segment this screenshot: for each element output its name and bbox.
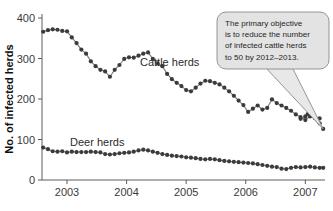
data-point — [198, 157, 202, 161]
data-point — [251, 161, 255, 165]
data-point — [89, 150, 93, 154]
data-point — [294, 165, 298, 169]
y-tick-label: 200 — [17, 93, 35, 105]
data-point — [189, 156, 193, 160]
data-point — [165, 72, 169, 76]
data-point — [113, 68, 117, 72]
callout-text-line: to 50 by 2012–2013. — [225, 53, 299, 62]
data-point — [108, 152, 112, 156]
data-point — [217, 158, 221, 162]
line-chart: 010020030040020032004200520062007No. of … — [0, 0, 333, 211]
data-point — [203, 79, 207, 83]
data-point — [284, 167, 288, 171]
data-point — [41, 30, 45, 34]
y-tick-label: 400 — [17, 12, 35, 24]
data-point — [237, 99, 241, 103]
data-point — [122, 57, 126, 61]
data-point — [184, 155, 188, 159]
y-tick-label: 300 — [17, 53, 35, 65]
data-point — [94, 150, 98, 154]
data-point — [298, 165, 302, 169]
data-point — [89, 59, 93, 63]
data-point — [270, 97, 274, 101]
data-point — [208, 79, 212, 83]
data-point — [265, 106, 269, 110]
annotation-callout-layer: The primary objectiveis to reduce the nu… — [217, 12, 329, 129]
data-point — [260, 163, 264, 167]
data-point — [170, 154, 174, 158]
data-point — [241, 103, 245, 107]
data-point — [160, 152, 164, 156]
data-point — [294, 112, 298, 116]
data-point — [232, 160, 236, 164]
data-point — [46, 147, 50, 151]
data-point — [227, 159, 231, 163]
data-point — [232, 94, 236, 98]
data-point — [70, 35, 74, 39]
data-point — [165, 153, 169, 157]
data-point — [146, 50, 150, 54]
data-point — [213, 157, 217, 161]
data-point — [103, 152, 107, 156]
data-point — [270, 165, 274, 169]
series-labels-layer: Cattle herdsDeer herds — [70, 56, 200, 148]
data-point — [127, 150, 131, 154]
x-tick-label: 2006 — [234, 186, 258, 198]
data-point — [175, 81, 179, 85]
x-tick-label: 2007 — [293, 186, 317, 198]
y-tick-label: 100 — [17, 134, 35, 146]
data-point — [79, 47, 83, 51]
data-point — [74, 150, 78, 154]
data-point — [132, 56, 136, 60]
data-point — [155, 151, 159, 155]
data-point — [98, 68, 102, 72]
data-point — [41, 146, 45, 150]
data-point — [179, 154, 183, 158]
callout-text-line: of infected cattle herds — [225, 41, 306, 50]
callout-text-line: The primary objective — [225, 19, 303, 28]
data-point — [298, 117, 302, 121]
data-point — [289, 109, 293, 113]
data-point — [94, 64, 98, 68]
data-point — [55, 150, 59, 154]
data-point — [246, 161, 250, 165]
x-tick-label: 2004 — [114, 186, 138, 198]
data-point — [251, 107, 255, 111]
data-point — [127, 55, 131, 59]
data-point — [303, 165, 307, 169]
data-point — [179, 84, 183, 88]
data-point — [189, 89, 193, 93]
data-point — [55, 28, 59, 32]
y-axis-title: No. of infected herds — [3, 44, 15, 153]
chart-container: 010020030040020032004200520062007No. of … — [0, 0, 333, 211]
data-point — [260, 107, 264, 111]
data-point — [303, 118, 307, 122]
data-point — [60, 29, 64, 33]
data-point — [313, 165, 317, 169]
data-point — [256, 103, 260, 107]
data-point — [237, 160, 241, 164]
data-point — [279, 103, 283, 107]
data-point — [117, 63, 121, 67]
data-point — [84, 52, 88, 56]
data-point — [51, 149, 55, 153]
data-point — [74, 41, 78, 45]
callout-tail — [265, 67, 323, 129]
data-point — [141, 148, 145, 152]
data-point — [279, 167, 283, 171]
data-point — [108, 75, 112, 79]
data-point — [151, 150, 155, 154]
data-point — [122, 151, 126, 155]
data-point — [222, 86, 226, 90]
callout-text-line: is to reduce the number — [225, 30, 310, 39]
data-point — [275, 165, 279, 169]
data-point — [65, 150, 69, 154]
data-point — [275, 101, 279, 105]
data-point — [146, 148, 150, 152]
data-point — [198, 82, 202, 86]
data-point — [284, 106, 288, 110]
data-point — [289, 166, 293, 170]
data-point — [98, 150, 102, 154]
data-point — [65, 29, 69, 33]
data-point — [113, 152, 117, 156]
